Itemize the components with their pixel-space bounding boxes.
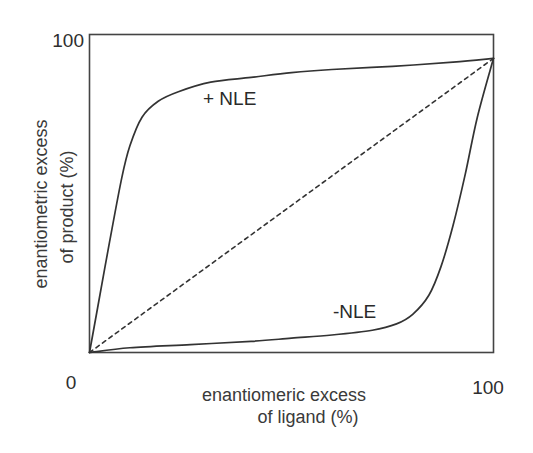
x-tick-0: 0 bbox=[66, 372, 77, 393]
negative-nle-label: -NLE bbox=[333, 301, 376, 322]
series-layer bbox=[90, 58, 494, 352]
x-axis-label-line2: of ligand (%) bbox=[257, 407, 358, 427]
plot-frame bbox=[90, 35, 494, 353]
x-tick-100: 100 bbox=[472, 377, 504, 398]
y-tick-100: 100 bbox=[52, 30, 84, 51]
y-axis-label-line1: enantiometric excess bbox=[31, 119, 51, 288]
y-axis-label-line2: of product (%) bbox=[57, 150, 77, 263]
positive-nle-label: + NLE bbox=[203, 88, 256, 109]
linear-reference-line bbox=[90, 58, 494, 352]
nle-chart: 100 0 100 enantiomeric excess of ligand … bbox=[0, 0, 533, 453]
x-axis-label-line1: enantiomeric excess bbox=[202, 385, 366, 405]
